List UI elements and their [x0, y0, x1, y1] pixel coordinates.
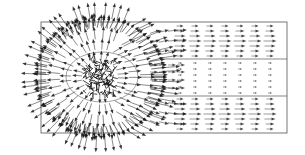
downstream-arrows — [150, 25, 277, 131]
quiver-canvas — [0, 0, 305, 155]
vector-field-plot — [0, 0, 305, 155]
